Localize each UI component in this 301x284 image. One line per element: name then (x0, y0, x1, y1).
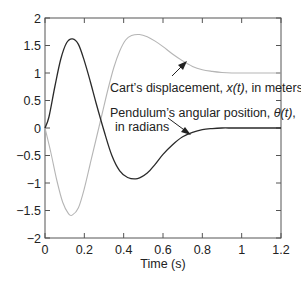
x-axis: 00.20.40.60.811.2 (42, 18, 290, 257)
annotation-pendulum-text-line2: in radians (115, 120, 169, 134)
x-tick-label: 0 (42, 243, 49, 257)
x-tick-label: 0.4 (115, 243, 132, 257)
y-tick-label: −0.5 (16, 149, 41, 163)
y-tick-label: −1 (27, 177, 41, 191)
annotation-pendulum-text: Pendulum’s angular position, θ(t), (110, 106, 296, 120)
x-tick-label: 1.2 (272, 243, 289, 257)
x-axis-label: Time (s) (140, 257, 185, 271)
y-tick-label: −2 (27, 232, 41, 246)
x-tick-label: 0.6 (154, 243, 171, 257)
x-tick-label: 1 (238, 243, 245, 257)
annotation-pendulum-position: Pendulum’s angular position, θ(t), in ra… (110, 106, 296, 135)
x-tick-label: 0.8 (194, 243, 211, 257)
x-tick-label: 0.2 (76, 243, 93, 257)
y-tick-label: −1.5 (16, 204, 41, 218)
annotation-cart-displacement: Cart’s displacement, x(t), in meters (110, 61, 301, 95)
y-tick-label: 1.5 (24, 39, 41, 53)
line-chart: −2−1.5−1−0.500.511.52 00.20.40.60.811.2 … (0, 0, 301, 284)
y-tick-label: 0.5 (24, 94, 41, 108)
annotation-cart-text: Cart’s displacement, x(t), in meters (110, 81, 301, 95)
y-tick-label: 1 (34, 67, 41, 81)
y-tick-label: 2 (34, 12, 41, 26)
y-tick-label: 0 (34, 122, 41, 136)
